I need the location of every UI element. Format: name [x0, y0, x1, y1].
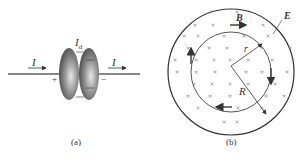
- svg-text:×: ×: [227, 80, 232, 87]
- svg-text:×: ×: [208, 8, 213, 15]
- svg-text:×: ×: [181, 32, 186, 39]
- left-plate: [59, 48, 79, 100]
- caption-b: (b): [226, 137, 237, 147]
- svg-text:×: ×: [193, 68, 198, 75]
- displacement-current-label: Id: [75, 36, 82, 51]
- svg-text:×: ×: [185, 44, 190, 51]
- svg-text:×: ×: [269, 56, 274, 63]
- magnetic-field-label: B: [236, 12, 243, 23]
- svg-text:×: ×: [235, 104, 240, 111]
- svg-text:×: ×: [245, 80, 250, 87]
- svg-text:×: ×: [192, 21, 197, 28]
- field-region-figure: ×× ×××× ××××× ××××× ××××××× ×××××× ×××××…: [168, 8, 296, 135]
- svg-text:×: ×: [206, 44, 211, 51]
- svg-text:×: ×: [210, 21, 215, 28]
- svg-text:×: ×: [209, 80, 214, 87]
- diagram-canvas: ×× ×××× ××××× ××××× ××××××× ×××××× ×××××…: [0, 0, 306, 162]
- svg-text:×: ×: [212, 68, 217, 75]
- svg-text:×: ×: [281, 92, 286, 99]
- current-label-left: I: [32, 56, 36, 68]
- svg-text:×: ×: [172, 56, 177, 63]
- svg-text:×: ×: [290, 56, 295, 63]
- electric-field-label: E: [284, 10, 291, 21]
- svg-text:×: ×: [227, 56, 232, 63]
- inner-radius-label: r: [244, 43, 248, 54]
- svg-text:×: ×: [284, 68, 289, 75]
- svg-text:×: ×: [227, 92, 232, 99]
- svg-text:×: ×: [185, 92, 190, 99]
- svg-text:×: ×: [272, 80, 277, 87]
- svg-text:×: ×: [265, 32, 270, 39]
- svg-text:×: ×: [259, 68, 264, 75]
- svg-text:×: ×: [260, 21, 265, 28]
- svg-text:×: ×: [211, 56, 216, 63]
- svg-text:×: ×: [191, 80, 196, 87]
- svg-text:×: ×: [241, 32, 246, 39]
- current-label-right: I: [112, 56, 116, 68]
- svg-text:×: ×: [243, 68, 248, 75]
- svg-text:×: ×: [193, 56, 198, 63]
- svg-text:×: ×: [234, 118, 239, 125]
- svg-text:×: ×: [224, 44, 229, 51]
- caption-a: (a): [71, 137, 81, 147]
- svg-text:×: ×: [174, 68, 179, 75]
- svg-text:×: ×: [207, 92, 212, 99]
- capacitor-figure: [8, 48, 140, 100]
- svg-text:×: ×: [245, 56, 250, 63]
- outer-boundary: [168, 9, 294, 135]
- right-plate: [79, 48, 99, 100]
- svg-text:×: ×: [263, 92, 268, 99]
- svg-text:×: ×: [287, 44, 292, 51]
- svg-text:×: ×: [195, 32, 200, 39]
- minus-sign: −: [101, 74, 106, 84]
- svg-text:×: ×: [221, 118, 226, 125]
- displacement-current-subscript: d: [79, 43, 83, 51]
- svg-text:×: ×: [195, 104, 200, 111]
- outer-radius-label: R: [239, 85, 246, 97]
- svg-text:×: ×: [259, 104, 264, 111]
- svg-text:×: ×: [221, 32, 226, 39]
- plus-sign: +: [52, 74, 57, 84]
